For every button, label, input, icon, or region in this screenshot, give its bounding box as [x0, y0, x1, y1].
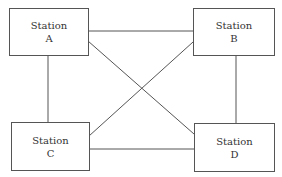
station-d-id: D	[230, 148, 238, 161]
station-b-id: B	[230, 32, 237, 45]
station-a: Station A	[9, 8, 89, 56]
station-c: Station C	[11, 122, 90, 171]
station-c-label: Station	[32, 134, 69, 147]
station-c-id: C	[47, 147, 55, 160]
station-a-label: Station	[31, 19, 68, 32]
station-d: Station D	[194, 123, 275, 172]
station-a-id: A	[45, 32, 52, 45]
station-d-label: Station	[216, 135, 253, 148]
station-b-label: Station	[216, 19, 253, 32]
station-b: Station B	[193, 8, 275, 56]
